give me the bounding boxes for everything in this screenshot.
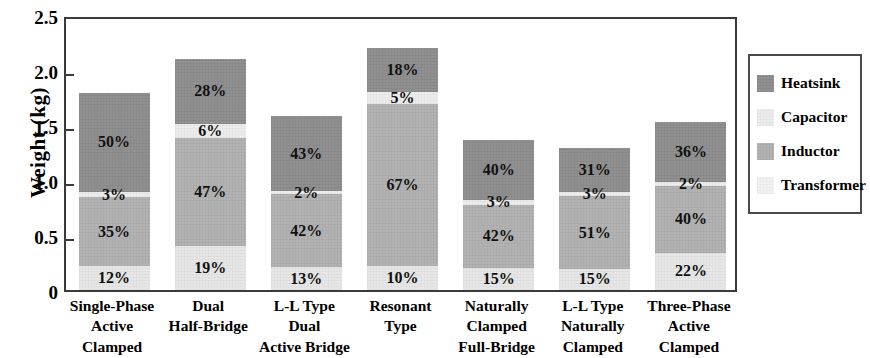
segment-value-label: 47% <box>194 184 226 200</box>
segment-value-label: 42% <box>290 223 322 239</box>
segment-value-label: 67% <box>387 177 419 193</box>
bar-4[interactable]: 18%5%67%10% <box>367 48 438 290</box>
bar-segment-inductor[interactable]: 42% <box>463 205 534 268</box>
bar-segment-capacitor[interactable]: 5% <box>367 92 438 104</box>
segment-value-label: 31% <box>579 162 611 178</box>
x-axis-category-labels: Single-PhaseActiveClampedDualHalf-Bridge… <box>64 296 737 358</box>
segment-value-label: 15% <box>579 271 611 287</box>
segment-value-label: 51% <box>579 225 611 241</box>
bar-segment-inductor[interactable]: 47% <box>175 138 246 247</box>
y-axis-tick-mark <box>66 74 74 76</box>
x-axis-label-line: Clamped <box>629 337 749 357</box>
legend-item-transformer[interactable]: Transformer <box>750 168 860 202</box>
bar-segment-heatsink[interactable]: 28% <box>175 59 246 124</box>
y-axis-tick-label: 0 <box>6 283 58 302</box>
chart-root: Weight (kg) 00.51.01.52.02.5 50%3%35%12%… <box>0 0 870 358</box>
y-axis-tick-label: 0.5 <box>6 228 58 247</box>
x-axis-label-line: Active Bridge <box>244 337 364 357</box>
segment-value-label: 5% <box>391 90 415 106</box>
legend-label: Inductor <box>781 142 840 160</box>
bar-segment-capacitor[interactable]: 6% <box>175 124 246 138</box>
bar-segment-inductor[interactable]: 42% <box>271 194 342 267</box>
bar-segment-transformer[interactable]: 15% <box>463 268 534 290</box>
bar-segment-inductor[interactable]: 51% <box>559 196 630 268</box>
bar-segment-transformer[interactable]: 15% <box>559 269 630 290</box>
segment-value-label: 3% <box>102 187 126 203</box>
segment-value-label: 35% <box>98 224 130 240</box>
bar-segment-transformer[interactable]: 13% <box>271 267 342 290</box>
bar-segment-heatsink[interactable]: 50% <box>79 93 150 191</box>
bar-segment-transformer[interactable]: 10% <box>367 266 438 290</box>
segment-value-label: 18% <box>387 62 419 78</box>
segment-value-label: 12% <box>98 270 130 286</box>
legend-swatch-inductor-icon <box>757 143 774 160</box>
bar-1[interactable]: 50%3%35%12% <box>79 93 150 290</box>
legend-label: Capacitor <box>781 108 847 126</box>
bar-segment-transformer[interactable]: 12% <box>79 266 150 290</box>
segment-value-label: 2% <box>679 176 703 192</box>
segment-value-label: 43% <box>290 146 322 162</box>
y-axis-tick-labels: 00.51.01.52.02.5 <box>0 0 58 358</box>
legend-item-inductor[interactable]: Inductor <box>750 134 860 168</box>
bar-segment-inductor[interactable]: 67% <box>367 104 438 266</box>
segment-value-label: 13% <box>290 271 322 287</box>
segment-value-label: 10% <box>387 270 419 286</box>
y-axis-tick-label: 1.0 <box>6 173 58 192</box>
segment-value-label: 3% <box>583 186 607 202</box>
legend-swatch-transformer-icon <box>757 177 774 194</box>
plot-area: 50%3%35%12%28%6%47%19%43%2%42%13%18%5%67… <box>64 17 737 292</box>
legend-swatch-capacitor-icon <box>757 109 774 126</box>
bar-5[interactable]: 40%3%42%15% <box>463 140 534 290</box>
bar-3[interactable]: 43%2%42%13% <box>271 116 342 290</box>
legend: HeatsinkCapacitorInductorTransformer <box>748 54 862 214</box>
bar-group: 50%3%35%12%28%6%47%19%43%2%42%13%18%5%67… <box>66 19 735 290</box>
legend-item-capacitor[interactable]: Capacitor <box>750 100 860 134</box>
segment-value-label: 3% <box>487 194 511 210</box>
legend-label: Transformer <box>781 176 866 194</box>
bar-segment-heatsink[interactable]: 40% <box>463 140 534 200</box>
bar-segment-heatsink[interactable]: 36% <box>655 122 726 183</box>
segment-value-label: 40% <box>483 162 515 178</box>
x-axis-label-line: Clamped <box>52 337 172 357</box>
segment-value-label: 15% <box>483 271 515 287</box>
segment-value-label: 19% <box>194 260 226 276</box>
bar-segment-inductor[interactable]: 35% <box>79 197 150 266</box>
segment-value-label: 28% <box>194 83 226 99</box>
legend-label: Heatsink <box>781 74 840 92</box>
x-axis-label-line: Three-Phase <box>629 296 749 316</box>
legend-swatch-heatsink-icon <box>757 75 774 92</box>
x-axis-label-line: Active <box>629 316 749 336</box>
y-axis-tick-label: 2.5 <box>6 8 58 27</box>
bar-6[interactable]: 31%3%51%15% <box>559 148 630 290</box>
segment-value-label: 50% <box>98 134 130 150</box>
bar-7[interactable]: 36%2%40%22% <box>655 122 726 290</box>
segment-value-label: 40% <box>675 211 707 227</box>
segment-value-label: 22% <box>675 263 707 279</box>
bar-segment-transformer[interactable]: 22% <box>655 253 726 290</box>
segment-value-label: 2% <box>294 185 318 201</box>
bar-segment-heatsink[interactable]: 43% <box>271 116 342 191</box>
y-axis-tick-mark <box>66 184 74 186</box>
bar-segment-heatsink[interactable]: 18% <box>367 48 438 92</box>
y-axis-tick-label: 1.5 <box>6 118 58 137</box>
bar-segment-transformer[interactable]: 19% <box>175 246 246 290</box>
legend-item-heatsink[interactable]: Heatsink <box>750 66 860 100</box>
bar-2[interactable]: 28%6%47%19% <box>175 59 246 290</box>
segment-value-label: 6% <box>198 123 222 139</box>
y-axis-tick-mark <box>66 239 74 241</box>
segment-value-label: 36% <box>675 144 707 160</box>
x-axis-label-7: Three-PhaseActiveClamped <box>629 296 749 357</box>
bar-segment-inductor[interactable]: 40% <box>655 186 726 253</box>
y-axis-tick-label: 2.0 <box>6 63 58 82</box>
y-axis-tick-mark <box>66 129 74 131</box>
segment-value-label: 42% <box>483 228 515 244</box>
